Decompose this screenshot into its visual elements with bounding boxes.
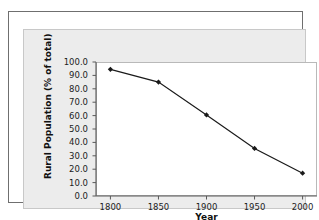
chart-panel: Rural Population (% of total) Year 0.010… — [23, 29, 306, 209]
figure-outer-frame: Rural Population (% of total) Year 0.010… — [8, 11, 303, 203]
plot-svg — [24, 30, 319, 219]
series-line — [110, 69, 302, 173]
tick-marks — [93, 62, 303, 200]
axis-lines — [96, 62, 317, 196]
data-point-marker — [300, 171, 305, 176]
data-point-marker — [108, 67, 113, 72]
figure-root: Rural Population (% of total) Year 0.010… — [0, 0, 319, 219]
